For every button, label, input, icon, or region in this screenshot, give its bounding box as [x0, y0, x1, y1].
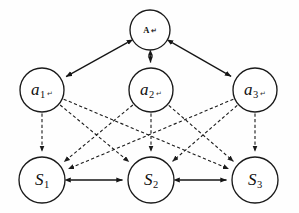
node-mark-A: ↵ — [151, 26, 157, 34]
node-subscript-S1: 1 — [44, 179, 49, 190]
node-a3[interactable]: a3↵ — [233, 68, 277, 112]
edge-a2-to-S3 — [169, 105, 234, 161]
node-subscript-S2: 2 — [153, 179, 158, 190]
node-a2[interactable]: a2↵ — [129, 68, 173, 112]
node-layer: A↵a1↵a2↵a3↵S1S2S3 — [19, 10, 278, 203]
diagram-root: A↵a1↵a2↵a3↵S1S2S3 — [0, 0, 299, 213]
node-A[interactable]: A↵ — [130, 10, 170, 50]
node-S3[interactable]: S3 — [232, 157, 278, 203]
node-subscript-a1: 1 — [40, 89, 45, 100]
edge-A-to-a1 — [66, 42, 128, 76]
node-subscript-a3: 3 — [253, 89, 258, 100]
edge-A-to-a3 — [172, 43, 231, 77]
node-mark-a2: ↵ — [156, 90, 162, 98]
node-S2[interactable]: S2 — [128, 157, 174, 203]
node-mark-a1: ↵ — [47, 90, 53, 98]
diagram-canvas: A↵a1↵a2↵a3↵S1S2S3 — [0, 0, 299, 213]
edge-a3-to-S2 — [173, 105, 238, 161]
node-mark-a3: ↵ — [260, 90, 266, 98]
node-subscript-S3: 3 — [257, 179, 262, 190]
edge-a1-to-S2 — [60, 105, 129, 162]
node-label-A: A↵ — [143, 24, 157, 34]
node-a1[interactable]: a1↵ — [20, 68, 64, 112]
edge-a2-to-S1 — [64, 105, 133, 162]
node-S1[interactable]: S1 — [19, 157, 65, 203]
node-subscript-a2: 2 — [149, 89, 154, 100]
